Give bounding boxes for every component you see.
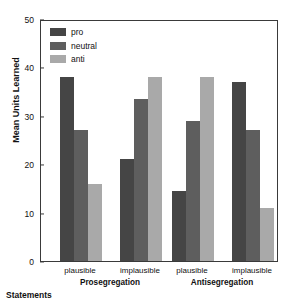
bar-anti	[148, 77, 162, 261]
bar-pro	[120, 159, 134, 261]
x-axis-title: Statements	[6, 290, 52, 300]
y-axis-tick-label: 0	[14, 258, 34, 267]
y-axis-tick-mark	[40, 165, 44, 166]
bar-neutral	[74, 130, 88, 261]
y-axis-tick-label: 40	[14, 64, 34, 73]
y-axis-tick-mark	[40, 116, 44, 117]
bar-anti	[200, 77, 214, 261]
x-axis-subgroup-label: implausible	[232, 266, 272, 275]
y-axis-title: Mean Units Learned	[11, 40, 21, 160]
legend-swatch-icon	[50, 28, 66, 36]
y-axis-tick-mark	[40, 261, 44, 262]
bar-pro	[172, 191, 186, 261]
legend-swatch-icon	[50, 55, 66, 63]
y-axis-tick-label: 10	[14, 209, 34, 218]
bar-neutral	[186, 121, 200, 261]
legend-item: neutral	[50, 42, 97, 51]
legend-item: anti	[50, 55, 97, 64]
y-axis-tick-mark	[40, 68, 44, 69]
y-axis-tick-label: 30	[14, 113, 34, 122]
x-axis-subgroup-label: plausible	[64, 266, 96, 275]
bar-pro	[232, 82, 246, 261]
legend-item: pro	[50, 28, 97, 37]
x-axis-group-label: Prosegregation	[80, 278, 140, 287]
y-axis-tick-mark	[40, 213, 44, 214]
x-axis-subgroup-label: implausible	[120, 266, 160, 275]
legend-label: anti	[71, 55, 85, 64]
legend-swatch-icon	[50, 42, 66, 50]
chart-legend: proneutralanti	[50, 28, 97, 69]
y-axis-tick-label: 50	[14, 16, 34, 25]
bar-anti	[88, 184, 102, 261]
bar-neutral	[134, 99, 148, 261]
x-axis-group-label: Antisegregation	[191, 278, 253, 287]
bar-pro	[60, 77, 74, 261]
legend-label: neutral	[71, 42, 97, 51]
legend-label: pro	[71, 28, 83, 37]
bar-chart-figure: Mean Units Learned 01020304050 proneutra…	[0, 0, 292, 307]
bar-anti	[260, 208, 274, 261]
x-axis-subgroup-label: plausible	[176, 266, 208, 275]
y-axis-tick-mark	[40, 19, 44, 20]
y-axis-tick-label: 20	[14, 161, 34, 170]
bar-neutral	[246, 130, 260, 261]
